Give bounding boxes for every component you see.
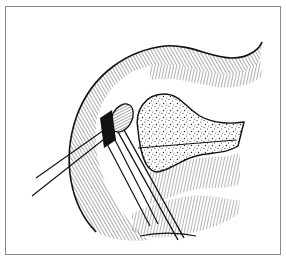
- stippled-mass: [132, 94, 244, 238]
- surgical-illustration: [0, 0, 286, 265]
